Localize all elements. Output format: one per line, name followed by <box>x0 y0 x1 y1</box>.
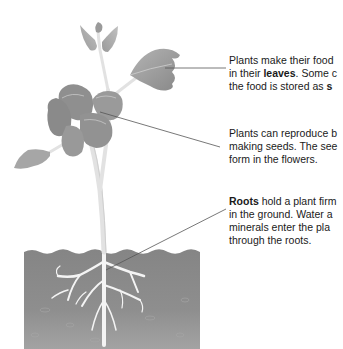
plant-illustration <box>0 0 343 349</box>
roots-caption: Roots hold a plant firm in the ground. W… <box>229 195 343 247</box>
term-roots: Roots <box>229 195 259 207</box>
flowers-caption: Plants can reproduce b making seeds. The… <box>229 127 343 166</box>
caption-line: through the roots. <box>229 234 343 247</box>
leaves-caption: Plants make their food in their leaves. … <box>229 54 343 93</box>
caption-line: form in the flowers. <box>229 153 343 166</box>
caption-line: minerals enter the pla <box>229 221 343 234</box>
caption-line: the food is stored as s <box>229 80 343 93</box>
caption-line: Roots hold a plant firm <box>229 195 343 208</box>
caption-line: Plants can reproduce b <box>229 127 343 140</box>
caption-line: in the ground. Water a <box>229 208 343 221</box>
caption-line: Plants make their food <box>229 54 343 67</box>
caption-line: making seeds. The see <box>229 140 343 153</box>
term-leaves: leaves <box>263 67 295 79</box>
caption-line: in their leaves. Some c <box>229 67 343 80</box>
leaves <box>14 22 180 169</box>
term-truncated: s <box>326 80 332 92</box>
